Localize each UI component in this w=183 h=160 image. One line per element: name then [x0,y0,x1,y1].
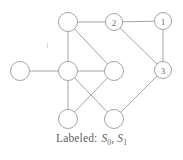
graph-edge [121,76,157,112]
graph-edge [75,29,108,64]
figure-caption: Labeled:S0,S1 [0,132,183,147]
graph-node-circle[interactable] [59,62,78,81]
graph-edges-layer [30,21,164,112]
caption-prefix: Labeled: [56,132,100,144]
graph-node-circle[interactable] [105,62,124,81]
scan-artifact-mark [47,43,48,48]
graph-node-label: 3 [161,66,166,76]
graph-node-three[interactable]: 3 [155,62,172,79]
graph-node-top-left[interactable] [59,13,78,32]
graph-edge [120,28,157,64]
graph-node-circle[interactable] [59,13,78,32]
graph-figure: 213 Labeled:S0,S1 [0,0,183,160]
graph-node-mid-right[interactable] [105,62,124,81]
graph-node-one[interactable]: 1 [155,13,172,30]
graph-node-bottom-left[interactable] [59,110,78,129]
graph-node-label: 2 [112,18,117,28]
graph-node-circle[interactable] [11,62,30,81]
graph-node-circle[interactable] [59,110,78,129]
graph-node-left[interactable] [11,62,30,81]
graph-node-hub[interactable] [59,62,78,81]
graph-edge [122,21,154,22]
graph-nodes-layer: 213 [11,13,172,129]
caption-symbol-s0: S0 [100,132,111,144]
graph-node-two[interactable]: 2 [106,14,123,31]
caption-symbol-s1: S1 [116,132,127,144]
graph-node-bottom-right[interactable] [105,110,124,129]
caption-symbol-s1-subscript: 1 [123,138,127,147]
graph-canvas: 213 [0,0,183,134]
graph-node-label: 1 [161,17,166,27]
graph-node-circle[interactable] [105,110,124,129]
